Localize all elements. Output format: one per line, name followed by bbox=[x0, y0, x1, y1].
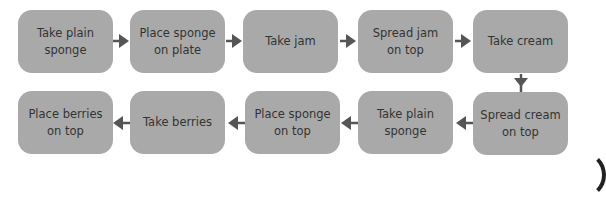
arrow-right-icon bbox=[113, 34, 130, 48]
arrow-right-icon bbox=[340, 34, 357, 48]
step-place-sponge-on-top: Place sponge on top bbox=[245, 91, 340, 154]
step-place-sponge-on-plate: Place sponge on plate bbox=[130, 10, 225, 73]
step-take-plain-sponge-2: Take plain sponge bbox=[358, 91, 453, 154]
arrow-left-icon bbox=[456, 116, 473, 130]
step-label: Place sponge on plate bbox=[136, 25, 219, 59]
arrow-left-icon bbox=[341, 116, 358, 130]
arrow-down-icon bbox=[514, 74, 528, 92]
frame-corner-bottom-left bbox=[0, 151, 28, 199]
step-take-berries: Take berries bbox=[130, 91, 225, 154]
step-place-berries: Place berries on top bbox=[18, 91, 113, 154]
step-label: Spread cream on top bbox=[479, 107, 562, 141]
step-spread-cream: Spread cream on top bbox=[473, 92, 568, 155]
step-label: Take jam bbox=[265, 33, 316, 50]
step-label: Take berries bbox=[143, 114, 212, 131]
step-label: Place sponge on top bbox=[251, 106, 334, 140]
step-take-plain-sponge: Take plain sponge bbox=[18, 10, 113, 73]
step-take-cream: Take cream bbox=[473, 10, 568, 73]
step-label: Place berries on top bbox=[24, 106, 107, 140]
step-label: Take cream bbox=[488, 33, 553, 50]
step-label: Take plain sponge bbox=[24, 25, 107, 59]
arrow-right-icon bbox=[226, 34, 243, 48]
step-label: Take plain sponge bbox=[364, 106, 447, 140]
step-spread-jam: Spread jam on top bbox=[358, 10, 453, 73]
step-label: Spread jam on top bbox=[364, 25, 447, 59]
frame-corner-bottom-right bbox=[558, 151, 606, 199]
arrow-right-icon bbox=[455, 34, 472, 48]
step-take-jam: Take jam bbox=[243, 10, 338, 73]
arrow-left-icon bbox=[113, 116, 130, 130]
arrow-left-icon bbox=[228, 116, 245, 130]
